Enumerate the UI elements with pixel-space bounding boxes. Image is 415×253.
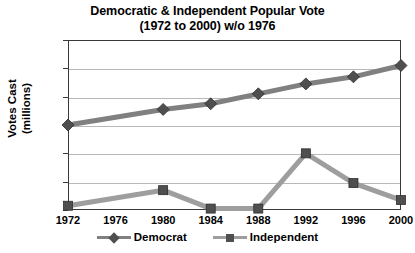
gridline <box>69 126 400 127</box>
gridline <box>69 183 400 184</box>
legend-entry-independent[interactable]: Independent <box>213 231 318 243</box>
legend-label: Independent <box>250 231 318 243</box>
y-axis-tick-mark <box>63 210 68 211</box>
legend-swatch <box>97 231 131 243</box>
y-axis-tick-mark <box>63 125 68 126</box>
y-axis-title: Votes Cast (millions) <box>6 59 33 159</box>
legend-entry-democrat[interactable]: Democrat <box>97 231 187 243</box>
legend-diamond-icon <box>108 232 119 243</box>
legend-label: Democrat <box>134 231 187 243</box>
y-axis-tick-mark <box>63 182 68 183</box>
chart-container: Democratic & Independent Popular Vote (1… <box>0 0 415 253</box>
y-axis-title-line-2: (millions) <box>19 59 33 159</box>
y-axis-tick-mark <box>63 68 68 69</box>
plot-area <box>68 40 401 210</box>
y-axis-title-line-1: Votes Cast <box>6 79 18 138</box>
chart-title-line-2: (1972 to 2000) w/o 1976 <box>0 19 415 34</box>
legend-square-icon <box>226 234 234 242</box>
chart-legend: DemocratIndependent <box>0 231 415 243</box>
x-axis-tick-label: 2000 <box>371 214 415 226</box>
chart-title: Democratic & Independent Popular Vote (1… <box>0 4 415 34</box>
y-axis-tick-mark <box>63 40 68 41</box>
gridline <box>69 69 400 70</box>
gridline <box>69 154 400 155</box>
y-axis-tick-mark <box>63 97 68 98</box>
legend-swatch <box>213 231 247 243</box>
gridline <box>69 98 400 99</box>
y-axis-tick-mark <box>63 153 68 154</box>
chart-title-line-1: Democratic & Independent Popular Vote <box>90 4 324 18</box>
